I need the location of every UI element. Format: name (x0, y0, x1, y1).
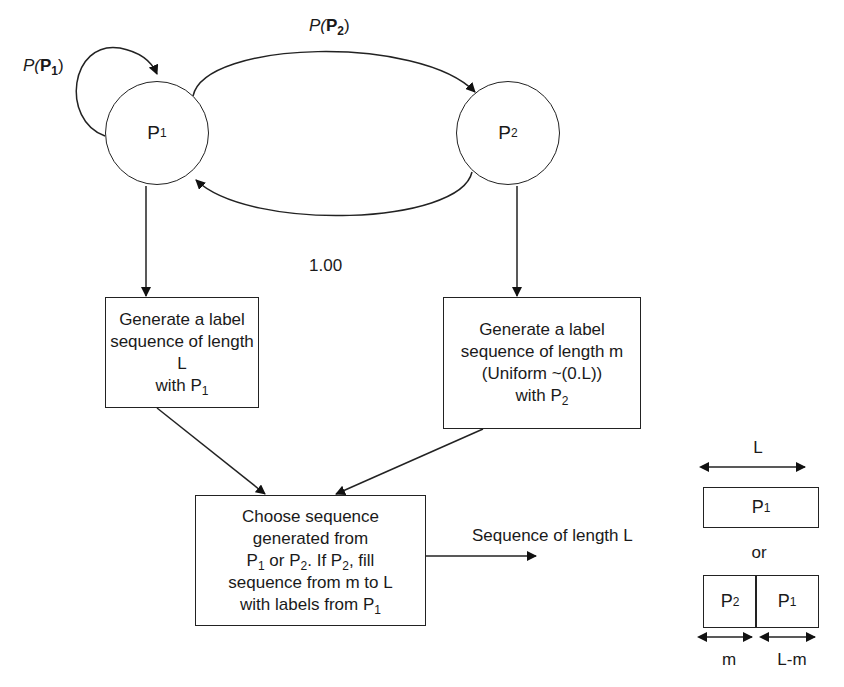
legend-p2-segment: P2 (703, 575, 757, 628)
legend-full-p1-segment: P1 (703, 487, 819, 528)
legend-or-label: or (744, 543, 774, 563)
output-label: Sequence of length L (472, 526, 633, 546)
legend-l-minus-m-label: L-m (770, 650, 814, 670)
state-node-p1: P1 (105, 81, 209, 185)
generate-p1-box: Generate a label sequence of length L wi… (105, 297, 259, 408)
p2-to-p1-arrow (196, 172, 472, 216)
choose-sequence-box: Choose sequence generated from P1 or P2.… (195, 495, 426, 626)
box1-to-box3-arrow (157, 408, 265, 494)
p1-to-p2-arrow (193, 52, 475, 96)
legend-m-label: m (717, 650, 741, 670)
legend-length-l-label: L (748, 438, 768, 458)
generate-p2-box: Generate a label sequence of length m (U… (443, 297, 641, 429)
box2-to-box3-arrow (336, 429, 483, 494)
self-loop-label: P(P1) (23, 56, 64, 76)
legend-p1-segment: P1 (755, 575, 819, 628)
p2-to-p1-label: 1.00 (309, 256, 342, 276)
state-node-p2: P2 (456, 81, 560, 185)
p1-to-p2-label: P(P2) (309, 16, 350, 36)
